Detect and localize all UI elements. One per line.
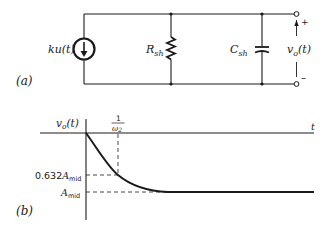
response-graph: vo(t) t 1 ω2 0.632Amid Amid (b) (16, 114, 315, 220)
x-axis-label: t (311, 121, 315, 132)
output-terminal-negative (294, 82, 299, 87)
output-terminal-positive (294, 12, 299, 17)
source-label: ku(t) (48, 43, 75, 56)
level-amid-label: Amid (60, 187, 80, 200)
part-b-label: (b) (16, 204, 33, 218)
time-constant-label: 1 ω2 (112, 114, 125, 133)
minus-sign: – (301, 72, 306, 83)
resistor-label: Rsh (145, 43, 164, 58)
circuit-diagram: ku(t) Rsh Csh + – vo(t) (a) (16, 12, 311, 88)
current-source-icon (74, 39, 95, 60)
resistor-icon (167, 37, 175, 60)
plus-sign: + (301, 17, 309, 27)
y-axis-label: vo(t) (56, 117, 79, 131)
svg-text:ω2: ω2 (112, 124, 122, 134)
svg-text:1: 1 (116, 114, 121, 123)
output-voltage-label: vo(t) (287, 43, 311, 58)
level-0632-label: 0.632Amid (35, 170, 81, 183)
response-curve (86, 133, 314, 192)
part-a-label: (a) (16, 74, 33, 88)
figure-canvas: ku(t) Rsh Csh + – vo(t) (a) (0, 0, 332, 230)
capacitor-label: Csh (230, 43, 248, 58)
